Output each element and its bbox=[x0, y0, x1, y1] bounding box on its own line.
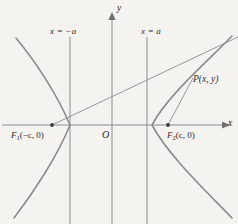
focus-right-coords: (c, 0) bbox=[176, 130, 195, 140]
hyperbola-figure: y x x = −a x = a O F1(−c, 0) F2(c, 0) P(… bbox=[0, 0, 238, 224]
focus-right-label: F2(c, 0) bbox=[167, 131, 195, 141]
point-p-label: P(x, y) bbox=[193, 75, 218, 85]
focus-left-dot bbox=[50, 123, 54, 127]
label-x-equals-a: x = a bbox=[141, 27, 161, 36]
x-axis bbox=[2, 121, 230, 128]
figure-canvas bbox=[0, 0, 238, 224]
label-x-equals-neg-a: x = −a bbox=[50, 27, 76, 36]
y-axis-arrow-icon bbox=[108, 12, 115, 20]
point-p-coords: (x, y) bbox=[199, 74, 219, 84]
origin-label: O bbox=[102, 130, 109, 140]
focus-left-label: F1(−c, 0) bbox=[11, 131, 44, 141]
hyperbola-left-branch bbox=[14, 38, 70, 218]
hyperbola-right-branch bbox=[152, 36, 232, 218]
segment-p-f2 bbox=[168, 78, 193, 125]
label-x-equals-a-text: x = a bbox=[141, 26, 161, 36]
y-axis bbox=[108, 12, 115, 224]
label-x-equals-neg-a-text: x = −a bbox=[50, 26, 76, 36]
x-axis-label: x bbox=[228, 119, 232, 129]
focus-left-coords: (−c, 0) bbox=[20, 130, 44, 140]
focus-right-dot bbox=[166, 123, 170, 127]
y-axis-label: y bbox=[117, 4, 121, 14]
